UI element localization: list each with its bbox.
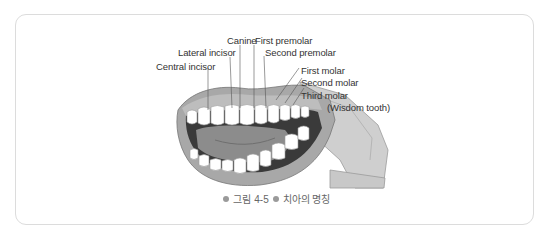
caption-number: 그림 4-5 — [233, 194, 268, 205]
label-canine: Canine — [227, 36, 257, 46]
label-first-molar: First molar — [301, 66, 345, 76]
label-lateral-incisor: Lateral incisor — [178, 48, 236, 58]
label-central-incisor: Central incisor — [156, 62, 215, 72]
bullet-icon — [273, 196, 279, 202]
bullet-icon — [223, 196, 229, 202]
label-second-premolar: Second premolar — [265, 48, 336, 58]
label-wisdom-tooth: (Wisdom tooth) — [327, 103, 390, 113]
caption-title: 치아의 명칭 — [283, 194, 331, 205]
label-third-molar: Third molar — [301, 91, 348, 101]
label-second-molar: Second molar — [301, 78, 358, 88]
figure-caption: 그림 4-5치아의 명칭 — [0, 191, 550, 206]
label-first-premolar: First premolar — [255, 36, 312, 46]
